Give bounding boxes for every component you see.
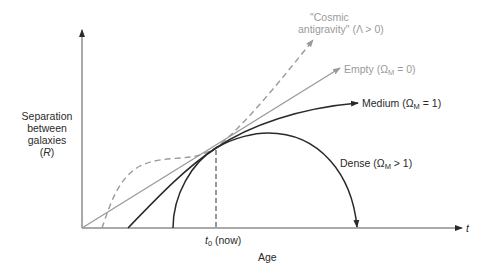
empty-label-text: Empty (Ω bbox=[344, 63, 388, 75]
t-symbol: t bbox=[466, 222, 469, 234]
t0-suffix: (now) bbox=[212, 234, 241, 246]
x-axis-label: Age bbox=[258, 251, 277, 263]
dense-label-rest: > 1) bbox=[391, 157, 412, 169]
empty-label: Empty (ΩM = 0) bbox=[344, 63, 416, 75]
t0-label: t0 (now) bbox=[205, 234, 241, 246]
medium-label: Medium (ΩM = 1) bbox=[362, 97, 441, 109]
curve-dense bbox=[173, 133, 357, 228]
y-axis-label-line4: (R) bbox=[14, 146, 80, 158]
r-variable: R bbox=[43, 146, 51, 158]
dense-label-text: Dense (Ω bbox=[340, 157, 385, 169]
y-axis-label: Separation between galaxies (R) bbox=[14, 110, 80, 158]
cosmic-label: "Cosmic antigravity" (Λ > 0) bbox=[298, 11, 384, 35]
x-axis-symbol: t bbox=[466, 222, 469, 234]
y-axis-label-line3: galaxies bbox=[14, 134, 80, 146]
paren-close: ) bbox=[51, 146, 55, 158]
dense-label: Dense (ΩM > 1) bbox=[340, 157, 412, 169]
y-axis-label-line1: Separation bbox=[14, 110, 80, 122]
medium-label-text: Medium (Ω bbox=[362, 97, 414, 109]
cosmic-label-line1: "Cosmic bbox=[298, 11, 384, 23]
curve-empty bbox=[82, 68, 340, 228]
y-axis-label-line2: between bbox=[14, 122, 80, 134]
medium-label-rest: = 1) bbox=[420, 97, 441, 109]
cosmic-label-line2: antigravity" (Λ > 0) bbox=[298, 23, 384, 35]
empty-label-rest: = 0) bbox=[394, 63, 415, 75]
